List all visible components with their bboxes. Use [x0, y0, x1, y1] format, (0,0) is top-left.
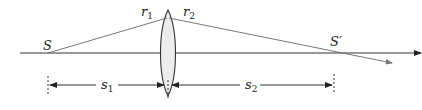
lens-diagram: S S′ r1 r2 s1 s2: [0, 0, 422, 110]
s1-label: s1: [101, 77, 113, 94]
refracted-ray: [169, 18, 392, 63]
convex-lens: [161, 10, 176, 96]
source-label: S: [43, 38, 52, 53]
image-label: S′: [330, 34, 342, 49]
incident-ray: [48, 18, 167, 53]
radius1-label: r1: [141, 4, 153, 21]
s2-label: s2: [245, 77, 257, 94]
radius2-label: r2: [183, 4, 195, 21]
